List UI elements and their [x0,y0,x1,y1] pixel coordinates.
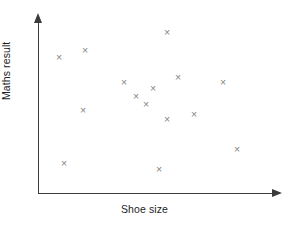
data-point-marker: × [141,99,152,110]
data-point-marker: × [232,144,243,155]
data-point-marker: × [189,109,200,120]
data-point-marker: × [154,164,165,175]
data-point-marker: × [148,83,159,94]
scatter-plot-figure: Maths result Shoe size ××××××××××××××× [0,0,289,226]
data-point-marker: × [80,45,91,56]
data-point-marker: × [54,52,65,63]
data-point-marker: × [173,72,184,83]
data-point-marker: × [119,77,130,88]
data-point-marker: × [78,105,89,116]
data-point-marker: × [162,27,173,38]
data-point-marker: × [131,91,142,102]
data-point-marker: × [59,158,70,169]
data-point-marker: × [162,114,173,125]
data-point-marker: × [218,77,229,88]
plot-area: ××××××××××××××× [0,0,289,226]
